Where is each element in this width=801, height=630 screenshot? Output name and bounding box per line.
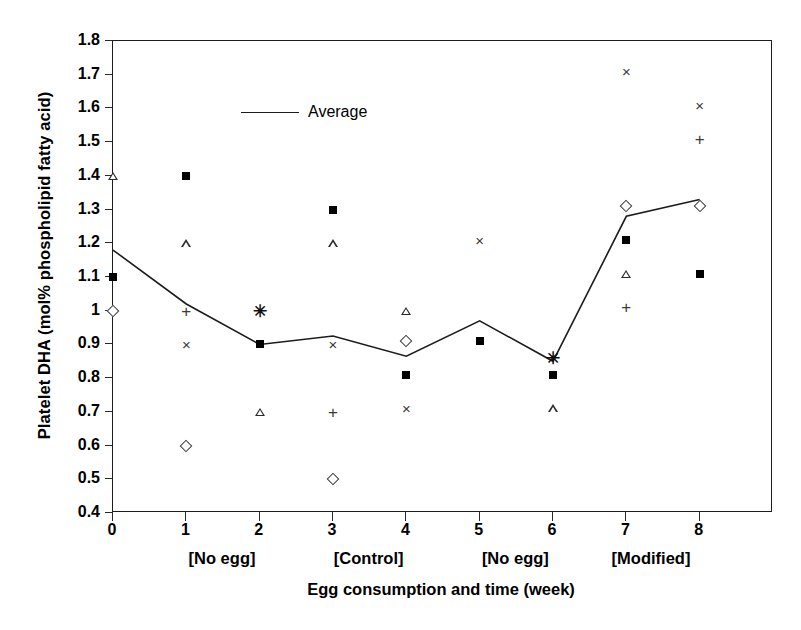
y-tick-label: 0.6 xyxy=(40,436,100,454)
y-tick-label: 1.7 xyxy=(40,65,100,83)
marker-filled-square xyxy=(329,206,337,214)
marker-filled-square xyxy=(182,172,190,180)
marker-filled-square xyxy=(109,273,117,281)
marker-open-triangle xyxy=(181,239,191,247)
x-tick-label: 5 xyxy=(459,521,499,539)
marker-filled-square xyxy=(696,270,704,278)
marker-x-cross: × xyxy=(182,337,191,352)
marker-open-triangle xyxy=(255,408,265,416)
group-label: [No egg] xyxy=(482,549,549,568)
legend: Average xyxy=(241,103,367,121)
y-tick-label: 1.5 xyxy=(40,132,100,150)
x-tick-mark xyxy=(405,512,406,521)
group-label: [Control] xyxy=(334,549,404,568)
y-tick-label: 1.8 xyxy=(40,31,100,49)
x-tick-label: 2 xyxy=(239,521,279,539)
x-tick-mark xyxy=(699,512,700,521)
group-label: [Modified] xyxy=(612,549,691,568)
x-tick-mark xyxy=(259,512,260,521)
x-tick-label: 3 xyxy=(312,521,352,539)
x-tick-mark xyxy=(332,512,333,521)
y-tick-label: 1 xyxy=(40,301,100,319)
y-tick-label: 1.4 xyxy=(40,166,100,184)
marker-plus: + xyxy=(181,302,191,319)
x-tick-label: 0 xyxy=(92,521,132,539)
marker-asterisk: ✳ xyxy=(253,302,267,319)
y-tick-label: 0.5 xyxy=(40,469,100,487)
marker-open-triangle xyxy=(401,307,411,315)
marker-x-cross: × xyxy=(402,401,411,416)
x-tick-mark xyxy=(625,512,626,521)
y-tick-label: 0.7 xyxy=(40,402,100,420)
marker-filled-square xyxy=(476,337,484,345)
y-tick-label: 1.6 xyxy=(40,98,100,116)
marker-asterisk: ✳ xyxy=(546,349,560,366)
marker-x-cross: × xyxy=(622,64,631,79)
marker-x-cross: × xyxy=(329,337,338,352)
marker-filled-square xyxy=(256,340,264,348)
x-tick-mark xyxy=(112,512,113,521)
marker-x-cross: × xyxy=(475,232,484,247)
x-tick-label: 4 xyxy=(385,521,425,539)
x-tick-label: 1 xyxy=(165,521,205,539)
x-tick-label: 6 xyxy=(532,521,572,539)
y-tick-label: 0.4 xyxy=(40,503,100,521)
legend-label-average: Average xyxy=(308,103,367,121)
marker-open-triangle xyxy=(108,172,118,180)
x-tick-mark xyxy=(185,512,186,521)
legend-line-swatch xyxy=(241,112,299,113)
marker-plus: + xyxy=(695,130,705,147)
x-tick-mark xyxy=(552,512,553,521)
marker-plus: + xyxy=(328,403,338,420)
plot-area: ××××××++++✳✳ Average xyxy=(112,40,772,512)
marker-open-triangle xyxy=(328,239,338,247)
marker-open-triangle xyxy=(548,404,558,412)
marker-filled-square xyxy=(402,371,410,379)
marker-open-triangle xyxy=(621,270,631,278)
marker-plus: + xyxy=(621,299,631,316)
group-label: [No egg] xyxy=(189,549,256,568)
marker-filled-square xyxy=(549,371,557,379)
y-tick-label: 1.2 xyxy=(40,233,100,251)
marker-filled-square xyxy=(622,236,630,244)
y-tick-label: 0.8 xyxy=(40,368,100,386)
y-tick-label: 0.9 xyxy=(40,334,100,352)
y-tick-label: 1.3 xyxy=(40,200,100,218)
chart-figure: Platelet DHA (mol% phospholipid fatty ac… xyxy=(0,0,801,630)
marker-x-cross: × xyxy=(695,98,704,113)
x-axis-title: Egg consumption and time (week) xyxy=(110,580,772,599)
average-line-svg xyxy=(113,41,773,513)
x-tick-mark xyxy=(479,512,480,521)
x-tick-label: 8 xyxy=(679,521,719,539)
y-tick-label: 1.1 xyxy=(40,267,100,285)
x-tick-label: 7 xyxy=(605,521,645,539)
